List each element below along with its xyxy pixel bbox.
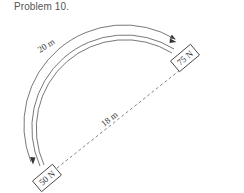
arc-length-label: 20 m: [36, 37, 57, 55]
semicircular-track-diagram: 18 m 20 m 75 N 50 N: [0, 0, 244, 193]
track-inner-rail: [36, 40, 172, 165]
chord-length-label: 18 m: [99, 109, 120, 128]
chord-dashed-line: [57, 70, 180, 168]
arrow-icon-top: [170, 39, 177, 44]
block-50n: 50 N: [33, 164, 62, 191]
block-75n: 75 N: [171, 44, 200, 71]
